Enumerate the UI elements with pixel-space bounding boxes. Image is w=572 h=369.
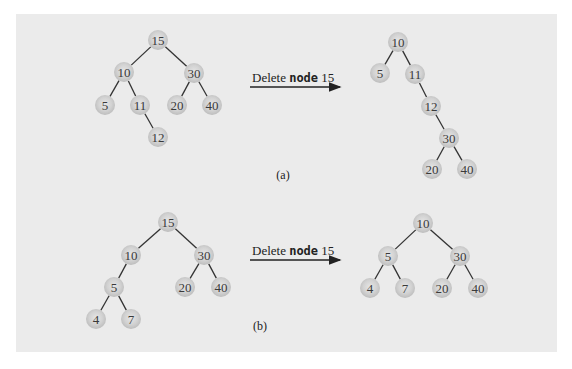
node-key: 5: [377, 66, 384, 81]
tree-b-after: 10530472040: [360, 213, 488, 298]
node-key: 10: [118, 65, 131, 80]
node-key: 12: [425, 99, 438, 114]
tree-edge: [430, 230, 452, 250]
tree-a-after-node-40: 40: [457, 159, 477, 179]
tree-a-before-node-11: 11: [130, 95, 150, 115]
tree-a-after-node-30: 30: [439, 128, 459, 148]
tree-b-after-node-4: 4: [360, 278, 380, 298]
bst-deletion-diagram: 151030511204012 Delete node 15 105111230…: [0, 0, 572, 369]
node-key: 40: [461, 162, 474, 177]
tree-b-before-node-40: 40: [211, 277, 231, 297]
tree-edge: [128, 81, 135, 96]
tree-b-after-node-20: 20: [432, 278, 452, 298]
tree-edge: [447, 265, 455, 280]
node-key: 15: [162, 215, 175, 230]
tree-edge: [419, 83, 426, 97]
tree-b-before-node-20: 20: [175, 277, 195, 297]
tree-a-after-node-10: 10: [388, 32, 408, 52]
tree-edge: [131, 47, 150, 65]
caption-b: (b): [253, 319, 267, 333]
tree-edge: [403, 51, 411, 65]
tree-a-before-node-40: 40: [202, 95, 222, 115]
tree-b-after-node-5: 5: [378, 246, 398, 266]
tree-edge: [436, 115, 444, 130]
tree-edge: [199, 82, 207, 97]
node-key: 7: [128, 312, 135, 327]
node-key: 10: [417, 216, 430, 231]
tree-b-after-node-10: 10: [413, 213, 433, 233]
node-key: 5: [102, 98, 109, 113]
node-key: 11: [134, 98, 147, 113]
tree-a-after-node-20: 20: [422, 159, 442, 179]
tree-edge: [182, 82, 190, 96]
tree-b-before-node-15: 15: [158, 212, 178, 232]
node-key: 5: [111, 280, 118, 295]
tree-a-before-node-10: 10: [114, 62, 134, 82]
tree-a-after-node-11: 11: [405, 64, 425, 84]
tree-a-before-node-20: 20: [167, 95, 187, 115]
node-key: 11: [409, 67, 422, 82]
node-key: 30: [188, 66, 201, 81]
tree-edge: [101, 296, 109, 311]
node-key: 7: [402, 281, 409, 296]
tree-b-after-node-30: 30: [450, 246, 470, 266]
node-key: 40: [206, 98, 219, 113]
tree-a-before-node-30: 30: [184, 63, 204, 83]
tree-edge: [437, 147, 444, 160]
node-key: 20: [436, 281, 449, 296]
tree-b-before-node-4: 4: [86, 309, 106, 329]
tree-edge: [209, 264, 217, 278]
tree-a-before-node-15: 15: [148, 30, 168, 50]
tree-b-before-node-30: 30: [194, 245, 214, 265]
tree-edge: [465, 265, 473, 280]
node-key: 40: [215, 280, 228, 295]
tree-edge: [454, 147, 462, 161]
part-a: 151030511204012 Delete node 15 105111230…: [95, 30, 477, 182]
tree-a-after-node-5: 5: [370, 63, 390, 83]
tree-edge: [119, 296, 127, 310]
operation-a-label: Delete node 15: [252, 70, 334, 85]
node-key: 15: [152, 33, 165, 48]
node-key: 20: [171, 98, 184, 113]
node-key: 30: [198, 248, 211, 263]
part-b: 1510305204047 Delete node 15 10530472040…: [86, 212, 488, 333]
tree-a-before-node-5: 5: [95, 95, 115, 115]
node-key: 20: [426, 162, 439, 177]
tree-a-after-node-12: 12: [421, 96, 441, 116]
tree-edge: [138, 229, 160, 249]
tree-edge: [145, 114, 153, 129]
caption-a: (a): [276, 168, 289, 182]
tree-edge: [385, 51, 393, 65]
tree-a-before: 151030511204012: [95, 30, 222, 147]
tree-b-before: 1510305204047: [86, 212, 231, 329]
operation-b: Delete node 15: [250, 243, 340, 260]
tree-a-before-node-12: 12: [148, 127, 168, 147]
tree-edge: [375, 265, 383, 280]
tree-edge: [119, 264, 127, 278]
node-key: 4: [93, 312, 100, 327]
tree-b-before-node-10: 10: [121, 245, 141, 265]
operation-b-label: Delete node 15: [252, 243, 334, 258]
node-key: 30: [454, 249, 467, 264]
tree-a-after: 1051112302040: [370, 32, 477, 179]
tree-edge: [190, 264, 199, 279]
tree-b-before-node-7: 7: [121, 309, 141, 329]
node-key: 30: [443, 131, 456, 146]
node-key: 5: [385, 249, 392, 264]
tree-edge: [110, 81, 119, 97]
node-key: 4: [367, 281, 374, 296]
operation-a: Delete node 15: [250, 70, 340, 87]
node-key: 10: [125, 248, 138, 263]
tree-b-before-node-5: 5: [104, 277, 124, 297]
tree-edge: [395, 230, 415, 249]
tree-edge: [175, 229, 196, 248]
node-key: 20: [179, 280, 192, 295]
node-key: 12: [152, 130, 165, 145]
tree-edge: [393, 265, 401, 279]
tree-edge: [165, 47, 186, 66]
tree-b-after-node-7: 7: [395, 278, 415, 298]
tree-b-after-node-40: 40: [468, 278, 488, 298]
node-key: 10: [392, 35, 405, 50]
node-key: 40: [472, 281, 485, 296]
